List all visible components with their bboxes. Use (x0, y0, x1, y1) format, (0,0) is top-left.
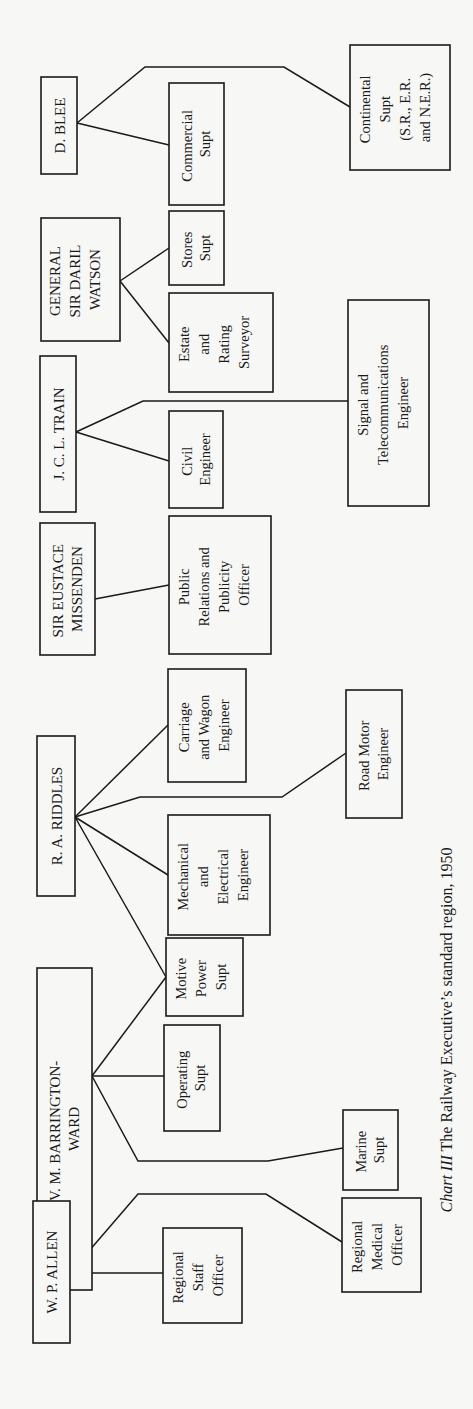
dept-box-signal: Signal and Telecommunications Engineer (348, 300, 429, 506)
dept-box-marine: Marine Supt (343, 1110, 398, 1190)
dept-box-motive-power: Motive Power Supt (166, 938, 243, 1016)
member-box-watson: GENERAL SIR DARIL WATSON (41, 218, 120, 341)
svg-text:R. A. RIDDLES: R. A. RIDDLES (49, 767, 65, 865)
member-box-blee: D. BLEE (41, 77, 77, 174)
connector-train-civil (76, 432, 169, 461)
org-chart: D. BLEE Commercial Supt Continental Supt… (0, 0, 473, 1409)
member-box-missenden: SIR EUSTACE MISSENDEN (40, 523, 95, 655)
member-box-train: J. C. L. TRAIN (40, 356, 76, 512)
caption-text: The Railway Executive’s standard region,… (438, 848, 456, 1156)
member-box-allen: W. P. ALLEN (33, 1201, 70, 1343)
connector-watson-estate (120, 281, 169, 343)
svg-text:GENERAL SIR DARIL: GENERAL SIR DARIL WATSON (47, 241, 103, 317)
connector-riddles-mech (75, 817, 168, 875)
svg-text:Carriage and Wagon: Carriage and Wagon Engineer (176, 691, 232, 760)
connector-blee-commercial (77, 123, 169, 145)
dept-box-commercial: Commercial Supt (169, 83, 224, 205)
chart-caption: Chart III The Railway Executive’s standa… (438, 848, 456, 1213)
caption-prefix: Chart III (438, 1154, 455, 1212)
connector-watson-stores (120, 248, 169, 281)
member-box-riddles: R. A. RIDDLES (37, 736, 75, 896)
dept-box-road-motor: Road Motor Engineer (346, 690, 402, 818)
dept-box-regional-staff: Regional Staff Officer (163, 1228, 242, 1323)
dept-box-operating: Operating Supt (164, 1025, 220, 1131)
connector-riddles-motive (75, 817, 166, 977)
dept-box-stores: Stores Supt (169, 211, 224, 285)
dept-box-estate: Estate and Rating Surveyor (169, 293, 273, 392)
dept-box-carriage: Carriage and Wagon Engineer (168, 669, 246, 782)
connector-barrington-motive (92, 977, 166, 1076)
connector-missenden-pr (95, 585, 169, 599)
svg-text:Regional Medical O: Regional Medical Officer (349, 1217, 405, 1273)
svg-text:J. C. L. TRAIN: J. C. L. TRAIN (51, 387, 67, 480)
svg-text:W. P. ALLEN: W. P. ALLEN (44, 1230, 60, 1313)
svg-text:D. BLEE: D. BLEE (52, 98, 68, 154)
dept-box-continental: Continental Supt (S.R., E.R. and N.E.R.) (350, 45, 450, 170)
dept-box-public-relations: Public Relations and Publicity Officer (169, 516, 271, 654)
dept-box-mechanical: Mechanical and Electrical Engineer (168, 815, 270, 935)
member-name: D. BLEE (52, 98, 68, 154)
dept-box-regional-medical: Regional Medical Officer (342, 1198, 421, 1292)
dept-box-civil: Civil Engineer (169, 411, 223, 508)
